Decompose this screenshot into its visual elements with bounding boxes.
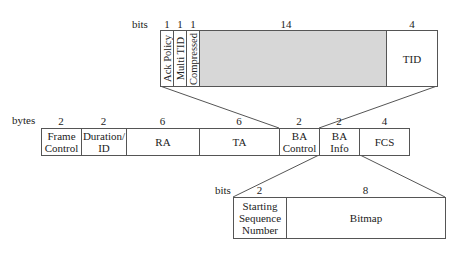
main-size-ba-control: 2 [279,115,319,127]
ra-label: RA [155,136,170,148]
top-size-compressed: 1 [189,18,197,30]
duration-id-cell: Duration/ ID [82,129,127,155]
bottom-size-bitmap: 8 [286,184,445,196]
top-size-ack-policy: 1 [163,18,171,30]
ba-control-label: BA Control [281,130,319,154]
ack-policy-label: Ack Policy [162,35,173,82]
ba-info-label: BA Info [330,130,350,154]
frame-control-cell: Frame Control [42,129,82,155]
ba-info-field: Starting Sequence Number Bitmap [233,197,446,239]
compressed-label: Compressed [188,33,199,85]
fcs-label: FCS [375,136,395,148]
ra-cell: RA [127,129,200,155]
tid-label: TID [403,53,421,65]
main-size-fcs: 4 [359,115,410,127]
multi-tid-cell: Multi TID [174,31,187,86]
top-size-reserved: 14 [276,18,296,30]
frame-control-label: Frame Control [44,130,80,154]
block-ack-frame: Frame Control Duration/ ID RA TA BA Cont… [41,128,410,156]
main-size-frame-control: 2 [41,115,81,127]
bottom-unit-label: bits [215,184,231,196]
top-size-multi-tid: 1 [176,18,184,30]
multi-tid-label: Multi TID [175,37,186,80]
ta-cell: TA [200,129,280,155]
compressed-cell: Compressed [187,31,200,86]
ba-info-cell: BA Info [320,129,360,155]
duration-id-label: Duration/ ID [82,130,126,154]
tid-cell: TID [387,31,437,86]
reserved-cell [200,31,387,86]
bitmap-cell: Bitmap [287,198,445,238]
main-unit-label: bytes [12,114,35,126]
ba-control-cell: BA Control [280,129,320,155]
top-unit-label: bits [132,18,148,30]
starting-sequence-number-cell: Starting Sequence Number [234,198,287,238]
top-size-tid: 4 [407,18,417,30]
bottom-size-ssn: 2 [233,184,286,196]
starting-sequence-number-label: Starting Sequence Number [235,200,285,236]
main-size-ba-info: 2 [319,115,359,127]
ba-control-field: Ack Policy Multi TID Compressed TID [160,30,438,87]
main-size-ra: 6 [126,115,199,127]
fcs-cell: FCS [360,129,409,155]
main-size-ta: 6 [199,115,279,127]
main-size-duration: 2 [81,115,126,127]
ta-label: TA [233,136,247,148]
ack-policy-cell: Ack Policy [161,31,174,86]
bitmap-label: Bitmap [350,212,382,224]
